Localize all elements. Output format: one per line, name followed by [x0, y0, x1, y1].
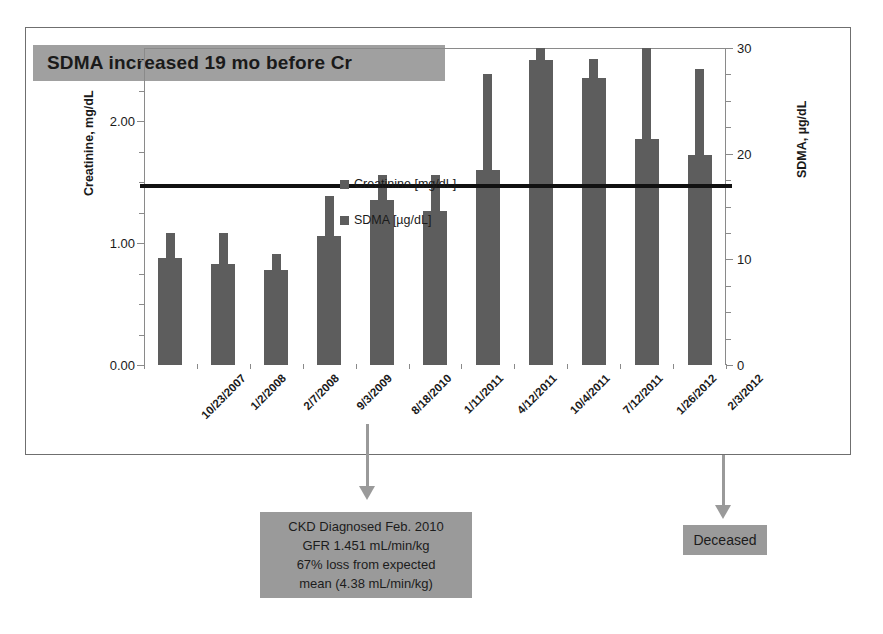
bar-sdma: [272, 254, 281, 365]
x-axis-tick: [197, 364, 198, 369]
x-axis-tick: [567, 364, 568, 369]
x-axis-line: [144, 48, 726, 49]
legend-label-sdma: SDMA [µg/dL]: [354, 213, 431, 227]
y-axis-left-tick-label: 0.00: [110, 358, 135, 373]
slide-canvas: SDMA increased 19 mo before Cr Creatinin…: [0, 0, 883, 634]
y-axis-left-tick: [139, 91, 144, 92]
y-axis-right-tick-label: 30: [737, 41, 751, 56]
y-axis-right-tick: [726, 180, 731, 181]
x-axis-tick: [303, 364, 304, 369]
y-axis-right-tick: [726, 365, 733, 366]
y-axis-left-tick-label: 1.00: [110, 236, 135, 251]
y-axis-right-tick-label: 20: [737, 146, 751, 161]
legend-item-creatinine: Creatinine [mg/dL]: [340, 177, 456, 191]
y-axis-left-tick: [139, 60, 144, 61]
y-axis-right-title: SDMA, µg/dL: [795, 101, 809, 178]
y-axis-right-tick: [726, 207, 731, 208]
y-axis-left-title: Creatinine, mg/dL: [82, 90, 96, 196]
bar-sdma: [483, 74, 492, 365]
deceased-callout-label: Deceased: [693, 531, 756, 550]
ckd-callout-line-4: mean (4.38 mL/min/kg): [299, 574, 433, 593]
y-axis-right-tick: [726, 312, 731, 313]
y-axis-right-tick-label: 10: [737, 252, 751, 267]
deceased-callout-box: Deceased: [683, 525, 767, 555]
y-axis-left-tick: [139, 304, 144, 305]
legend-swatch-icon-creatinine: [340, 180, 349, 189]
legend-label-creatinine: Creatinine [mg/dL]: [354, 177, 456, 191]
bar-sdma: [219, 233, 228, 365]
y-axis-left-tick-label: 2.00: [110, 114, 135, 129]
bar-sdma: [589, 59, 598, 365]
x-axis-tick: [673, 364, 674, 369]
ckd-callout-line-3: 67% loss from expected: [297, 555, 436, 574]
y-axis-left-tick: [137, 365, 144, 366]
x-axis-tick: [409, 364, 410, 369]
y-axis-left-tick: [139, 335, 144, 336]
ckd-callout-box: CKD Diagnosed Feb. 2010 GFR 1.451 mL/min…: [260, 512, 472, 598]
bar-sdma: [695, 69, 704, 365]
y-axis-right-tick: [726, 48, 733, 49]
x-axis-tick: [144, 364, 145, 369]
ckd-callout-line-1: CKD Diagnosed Feb. 2010: [288, 517, 443, 536]
y-axis-left-tick: [139, 152, 144, 153]
y-axis-left-tick: [137, 121, 144, 122]
y-axis-right-tick: [726, 127, 731, 128]
y-axis-right-tick: [726, 233, 731, 234]
chart-legend: Creatinine [mg/dL] SDMA [µg/dL]: [340, 177, 456, 249]
y-axis-right-tick: [726, 101, 731, 102]
y-axis-right-tick: [726, 154, 733, 155]
bar-sdma: [325, 196, 334, 365]
bar-sdma: [642, 48, 651, 365]
y-axis-right-tick: [726, 339, 731, 340]
y-axis-left-tick: [139, 213, 144, 214]
x-axis-tick: [620, 364, 621, 369]
plot-area: Creatinine [mg/dL] SDMA [µg/dL]: [144, 48, 726, 365]
y-axis-right-tick-label: 0: [737, 358, 744, 373]
ckd-callout-line-2: GFR 1.451 mL/min/kg: [302, 536, 429, 555]
y-axis-right-tick: [726, 259, 733, 260]
y-axis-left-line: [144, 48, 145, 365]
x-axis-tick: [726, 364, 727, 369]
legend-item-sdma: SDMA [µg/dL]: [340, 213, 456, 227]
bar-sdma: [166, 233, 175, 365]
y-axis-right-tick: [726, 286, 731, 287]
x-axis-tick: [250, 364, 251, 369]
y-axis-left-tick: [139, 274, 144, 275]
y-axis-right-tick: [726, 74, 731, 75]
x-axis-tick: [514, 364, 515, 369]
legend-swatch-icon-sdma: [340, 216, 349, 225]
y-axis-left-tick: [137, 243, 144, 244]
bar-sdma: [536, 48, 545, 365]
x-axis-tick: [461, 364, 462, 369]
x-axis-tick: [356, 364, 357, 369]
